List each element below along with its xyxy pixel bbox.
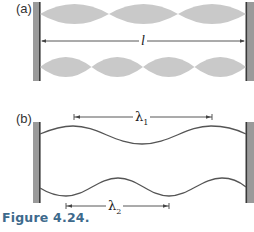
right-wall-a (246, 2, 254, 81)
figure-caption: Figure 4.24. (2, 210, 90, 225)
wave-1-curve (40, 126, 246, 144)
wave-2-curve (40, 178, 246, 196)
lambda-symbol: λ (108, 198, 116, 213)
left-wall-b (33, 122, 40, 203)
wavelength-2-label: λ2 (106, 199, 123, 218)
panel-b-label: (b) (16, 111, 32, 126)
standing-waves-diagram (0, 0, 254, 232)
panel-a-label: (a) (16, 1, 32, 16)
left-wall-a (33, 2, 40, 81)
lambda-subscript: 2 (116, 207, 121, 216)
four-loop-mode (40, 57, 246, 77)
lambda-subscript: 1 (143, 118, 148, 127)
lambda-symbol: λ (135, 109, 143, 124)
length-label: l (139, 34, 147, 48)
right-wall-b (246, 122, 254, 203)
wavelength-1-label: λ1 (133, 110, 150, 129)
three-loop-mode (40, 4, 246, 24)
